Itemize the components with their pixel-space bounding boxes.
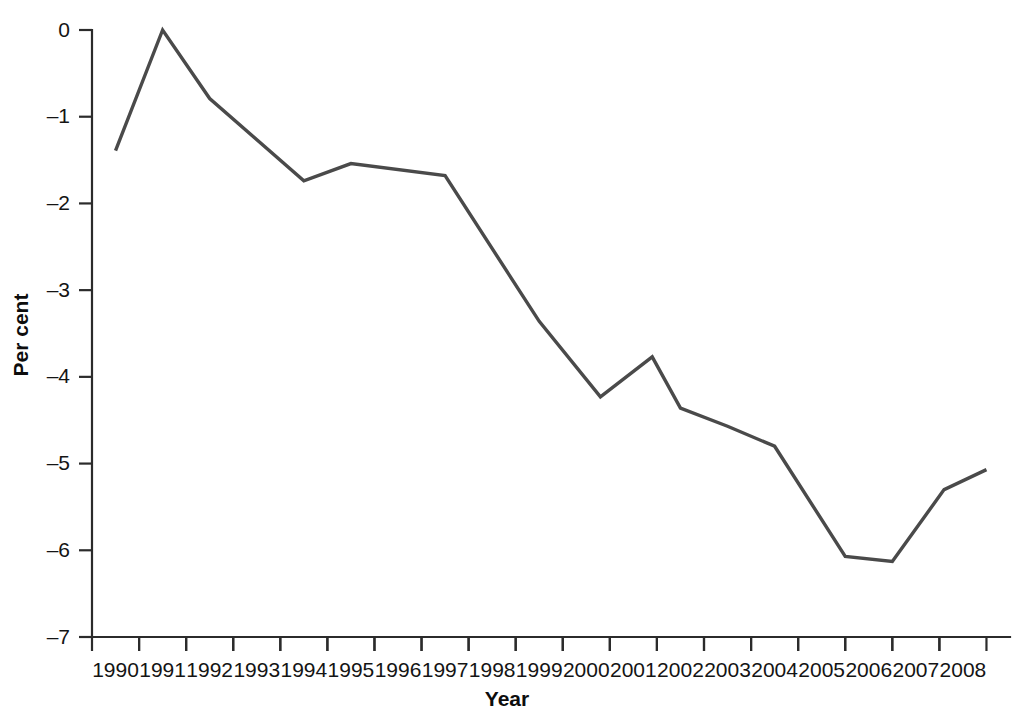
x-axis-ticks (92, 637, 986, 651)
x-tick-label: 2008 (940, 658, 987, 681)
y-tick-label: –1 (47, 104, 70, 127)
x-tick-label: 2005 (798, 658, 845, 681)
chart-container: 0–1–2–3–4–5–6–7 199019911992199319941995… (0, 0, 1015, 724)
line-chart: 0–1–2–3–4–5–6–7 199019911992199319941995… (0, 0, 1015, 724)
x-tick-label: 1992 (186, 658, 233, 681)
series-line-per-cent (116, 30, 987, 562)
y-tick-label: –7 (47, 625, 70, 648)
x-tick-label: 2000 (563, 658, 610, 681)
x-axis-title: Year (485, 687, 529, 710)
x-tick-label: 2003 (704, 658, 751, 681)
y-tick-label: –5 (47, 451, 70, 474)
y-tick-label: 0 (58, 18, 70, 41)
y-tick-label: –2 (47, 191, 70, 214)
y-tick-label: –3 (47, 278, 70, 301)
y-tick-label: –4 (47, 364, 71, 387)
x-tick-label: 2001 (610, 658, 657, 681)
x-tick-label: 2006 (845, 658, 892, 681)
x-axis-tick-labels: 1990199119921993199419951996199719981999… (92, 658, 986, 681)
data-series-group (116, 30, 987, 562)
y-axis-tick-labels: 0–1–2–3–4–5–6–7 (47, 18, 71, 648)
x-tick-label: 1997 (422, 658, 469, 681)
x-tick-label: 2002 (657, 658, 704, 681)
x-tick-label: 2007 (892, 658, 939, 681)
x-tick-label: 1998 (469, 658, 516, 681)
y-tick-label: –6 (47, 538, 70, 561)
x-tick-label: 1996 (375, 658, 422, 681)
x-tick-label: 1990 (92, 658, 139, 681)
y-axis-title: Per cent (9, 294, 32, 377)
y-axis-ticks (79, 30, 92, 637)
x-tick-label: 1999 (516, 658, 563, 681)
x-tick-label: 1993 (233, 658, 280, 681)
x-tick-label: 1995 (328, 658, 375, 681)
x-tick-label: 1994 (280, 658, 327, 681)
x-tick-label: 1991 (139, 658, 186, 681)
x-tick-label: 2004 (751, 658, 798, 681)
